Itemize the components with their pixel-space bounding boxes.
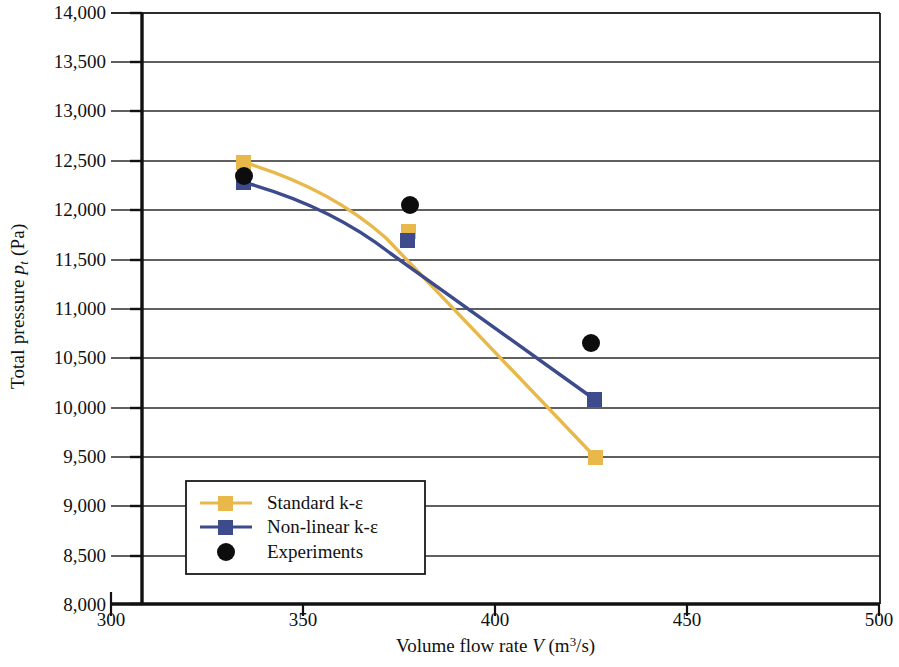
plot-area	[0, 0, 899, 667]
data-point-marker	[400, 233, 415, 248]
data-point-marker	[401, 196, 419, 214]
y-axis-line	[130, 13, 142, 604]
gridlines	[111, 13, 880, 556]
legend-marker-standard	[218, 496, 233, 511]
legend-label-experiments: Experiments	[267, 541, 363, 563]
data-point-marker	[582, 334, 600, 352]
series-standard-k-epsilon	[236, 155, 603, 465]
data-point-marker	[235, 167, 253, 185]
chart-figure: Total pressure pt (Pa) 14,000 13,500 13,…	[0, 0, 899, 667]
legend-label-standard: Standard k-ε	[267, 492, 363, 514]
data-point-marker	[587, 392, 602, 407]
legend-label-non-linear: Non-linear k-ε	[267, 516, 378, 538]
data-point-marker	[588, 450, 603, 465]
x-axis-line	[111, 592, 880, 616]
legend-marker-experiments	[217, 543, 235, 561]
legend-marker-non-linear	[218, 520, 233, 535]
